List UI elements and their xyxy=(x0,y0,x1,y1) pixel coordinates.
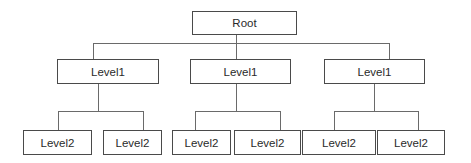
root-label: Root xyxy=(232,17,256,29)
connector-leaf-c1 xyxy=(334,111,335,130)
level2-label: Level2 xyxy=(185,137,219,149)
connector-stem-c xyxy=(374,84,375,111)
level2-node: Level2 xyxy=(103,130,162,155)
level2-label: Level2 xyxy=(116,137,150,149)
connector-leaf-a1 xyxy=(58,111,59,130)
connector-level1-c xyxy=(389,43,390,59)
level1-node: Level1 xyxy=(324,59,425,84)
level2-node: Level2 xyxy=(23,130,92,155)
connector-level1-a xyxy=(93,43,94,59)
level2-label: Level2 xyxy=(251,137,285,149)
connector-leaf-a2 xyxy=(143,111,144,130)
level1-label: Level1 xyxy=(224,66,258,78)
level1-label: Level1 xyxy=(358,66,392,78)
level2-label: Level2 xyxy=(322,137,356,149)
connector-leaf-b2 xyxy=(280,111,281,130)
connector-level1-b xyxy=(236,43,237,59)
level2-node: Level2 xyxy=(377,130,445,155)
connector-bar-c xyxy=(334,111,419,112)
connector-stem-b xyxy=(236,84,237,111)
connector-leaf-c2 xyxy=(418,111,419,130)
level1-node: Level1 xyxy=(57,59,159,84)
connector-bar-b xyxy=(195,111,281,112)
connector-stem-a xyxy=(98,84,99,111)
level2-node: Level2 xyxy=(172,130,231,155)
level1-node: Level1 xyxy=(190,59,291,84)
level2-label: Level2 xyxy=(394,137,428,149)
connector-bar-a xyxy=(58,111,144,112)
connector-root-bar xyxy=(93,43,390,44)
root-node: Root xyxy=(192,11,297,35)
level1-label: Level1 xyxy=(91,66,125,78)
level2-node: Level2 xyxy=(302,130,376,155)
level2-label: Level2 xyxy=(41,137,75,149)
connector-leaf-b1 xyxy=(195,111,196,130)
level2-node: Level2 xyxy=(234,130,301,155)
